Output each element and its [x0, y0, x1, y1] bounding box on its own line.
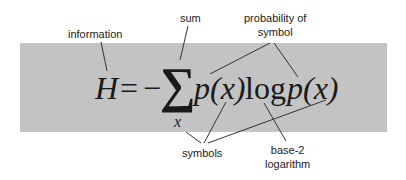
label-probability-line1: probability of [244, 11, 306, 25]
label-probability: probability of symbol [244, 11, 306, 39]
label-symbols: symbols [182, 146, 222, 160]
label-base2-line2: logarithm [265, 157, 310, 171]
label-base2-logarithm: base-2 logarithm [265, 143, 310, 171]
label-probability-line2: symbol [244, 25, 306, 39]
label-base2-line1: base-2 [265, 143, 310, 157]
label-information: information [68, 27, 122, 41]
label-sum: sum [180, 11, 201, 25]
